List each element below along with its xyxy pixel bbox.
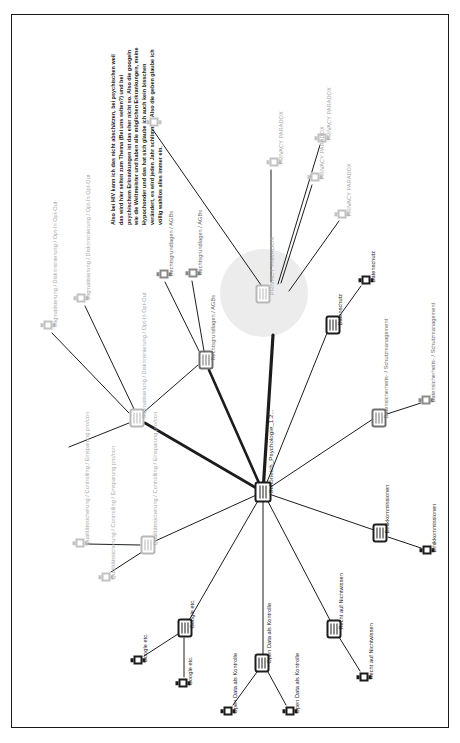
edge-st-memo-2 (52, 333, 129, 413)
edge-rn-memo-1 (339, 637, 360, 671)
node-label-privacy-paradox: PRIVACY PARADOX (269, 237, 275, 296)
node-privacy-paradox[interactable]: PRIVACY PARADOX (256, 285, 271, 304)
node-label-datenschutz-memo-1: Datenschutz (371, 251, 377, 283)
node-datensicherheit[interactable]: Datensicherheits- / Schutzmanagement (372, 409, 387, 428)
node-label-open-data-memo-1: Open Data als Kontrolle (233, 653, 239, 714)
node-label-privacy-paradox-memo-3: PRIVACY PARADOX (320, 126, 326, 179)
node-open-data[interactable]: Open Data als Kontrolle (255, 654, 270, 673)
node-label-stigmatisierung-memo-2: Stigmatisierung / Diskriminierung / Opt-… (53, 202, 59, 328)
node-label-google-memo-2: Google etc. (188, 656, 194, 685)
node-privacy-paradox-memo-2[interactable]: PRIVACY PARADOX (270, 158, 279, 167)
node-label-recht-auf-nichtwissen: Recht auf Nichtwissen (339, 573, 345, 629)
edge-st-memo-1 (85, 306, 134, 409)
node-datensicherheit-memo-1[interactable]: Datensicherheits- / Schutzmanagement (422, 396, 431, 405)
node-label-privacy-paradox-memo-4: PRIVACY PARADOX (347, 163, 353, 216)
edge-hub-rechtsgrundlagen (209, 370, 263, 492)
edge-hub-datensicherheit (263, 419, 373, 492)
node-document-hub[interactable]: Schöneich_Psychologie_1.2... (255, 482, 272, 503)
node-stigmatisierung[interactable]: Stigmatisierung / Diskriminierung / Opt-… (130, 409, 145, 428)
node-label-open-data-memo-2: Open Data als Kontrolle (295, 653, 301, 714)
node-stigmatisierung-memo-1[interactable]: Stigmatisierung / Diskriminierung / Opt-… (77, 294, 86, 303)
node-open-data-memo-1[interactable]: Open Data als Kontrolle (224, 707, 233, 716)
node-label-qualitaetssicherung-memo-1: Qualitätssicherung / Controlling / Einsp… (85, 412, 91, 546)
edge-st-left-tail (69, 423, 129, 447)
node-google[interactable]: Google etc. (178, 619, 193, 638)
node-qualitaetssicherung[interactable]: Qualitätssicherung / Controlling / Einsp… (141, 536, 156, 555)
node-label-rechtsgrundlagen-memo-2: Rechtsgrundlagen / AGBs (169, 211, 175, 277)
node-label-privacy-paradox-memo-1: PRIVACY PARADOX (327, 87, 333, 140)
node-qualitaetssicherung-memo-1[interactable]: Qualitätssicherung / Controlling / Einsp… (76, 539, 85, 548)
node-label-google: Google etc. (190, 599, 196, 628)
node-datenschutz[interactable]: Datenschutz (326, 316, 341, 335)
node-privacy-paradox-memo-3[interactable]: PRIVACY PARADOX (311, 173, 320, 182)
quote-text: Also bei HIV kann ich das nicht abschätz… (110, 47, 165, 225)
node-label-datenschutz: Datenschutz (338, 294, 344, 326)
code-map-frame: Also bei HIV kann ich das nicht abschätz… (11, 14, 449, 728)
edge-st-rg (144, 365, 198, 412)
edge-rg-memo-2 (165, 282, 200, 353)
node-label-document-hub: Schöneich_Psychologie_1.2... (268, 409, 274, 493)
node-datenschutz-memo-1[interactable]: Datenschutz (362, 276, 371, 285)
node-privacy-paradox-memo-4[interactable]: PRIVACY PARADOX (338, 210, 347, 219)
node-label-stigmatisierung: Stigmatisierung / Diskriminierung / Opt-… (142, 293, 148, 419)
edge-pp-memo-4 (289, 221, 339, 291)
edge-pp-memo-3 (281, 185, 312, 283)
node-label-ethikkommissionen: Ethikkommissionen (385, 484, 391, 533)
edge-hub-stigmatisierung (145, 423, 263, 492)
node-rechtsgrundlagen-memo-2[interactable]: Rechtsgrundlagen / AGBs (160, 270, 169, 279)
node-qualitaetssicherung-memo-2[interactable]: Qualitätssicherung / Controlling / Einsp… (102, 573, 111, 582)
edge-ds-memo-1 (387, 403, 421, 414)
node-recht-auf-nichtwissen-memo-1[interactable]: Recht auf Nichtwissen (360, 673, 369, 682)
node-label-rechtsgrundlagen: Rechtsgrundlagen / AGBs (211, 295, 217, 361)
node-rechtsgrundlagen[interactable]: Rechtsgrundlagen / AGBs (199, 351, 214, 370)
node-label-qualitaetssicherung: Qualitätssicherung / Controlling / Einsp… (153, 412, 159, 546)
node-label-qualitaetssicherung-memo-2: Qualitätssicherung / Controlling / Einsp… (111, 446, 117, 580)
edge-od-memo-2 (268, 672, 286, 705)
node-rechtsgrundlagen-memo-1[interactable]: Rechtsgrundlagen / AGBs (189, 269, 198, 278)
node-label-datensicherheit: Datensicherheits- / Schutzmanagement (384, 319, 390, 419)
edge-gg-memo-1 (144, 634, 178, 656)
edge-hub-qualitaetssicherung (153, 492, 263, 542)
node-label-privacy-paradox-memo-2: PRIVACY PARADOX (279, 111, 285, 164)
node-label-open-data: Open Data als Kontrolle (267, 603, 273, 664)
edge-hub-google (188, 492, 263, 622)
node-recht-auf-nichtwissen[interactable]: Recht auf Nichtwissen (327, 620, 342, 639)
screenshot-page: Also bei HIV kann ich das nicht abschätz… (0, 0, 460, 743)
node-ethikkommissionen-memo-1[interactable]: Ethikkommissionen (423, 546, 432, 555)
node-label-google-memo-1: Google etc. (143, 633, 149, 662)
edge-pp-memo-1 (278, 145, 320, 284)
node-ethikkommissionen[interactable]: Ethikkommissionen (373, 524, 388, 543)
node-label-datensicherheit-memo-1: Datensicherheits- / Schutzmanagement (431, 303, 437, 403)
memo-icon (150, 118, 159, 127)
node-google-memo-2[interactable]: Google etc. (179, 679, 188, 688)
node-label-stigmatisierung-memo-1: Stigmatisierung / Diskriminierung / Opt-… (86, 175, 92, 301)
node-quote-memo[interactable] (150, 118, 159, 127)
node-label-recht-auf-nichtwissen-memo-1: Recht auf Nichtwissen (369, 623, 375, 679)
node-label-ethikkommissionen-memo-1: Ethikkommissionen (432, 503, 438, 552)
node-google-memo-1[interactable]: Google etc. (134, 656, 143, 665)
node-label-rechtsgrundlagen-memo-1: Rechtsgrundlagen / AGBs (198, 210, 204, 276)
edge-ek-memo-1 (388, 537, 421, 548)
node-open-data-memo-2[interactable]: Open Data als Kontrolle (286, 707, 295, 716)
node-stigmatisierung-memo-2[interactable]: Stigmatisierung / Diskriminierung / Opt-… (44, 321, 53, 330)
